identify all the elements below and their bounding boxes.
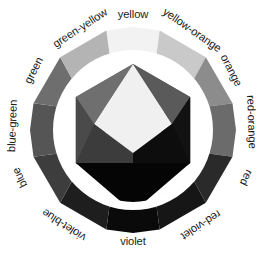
color-wheel-svg: yellow yellow-orange orange red-orange r… bbox=[0, 0, 266, 255]
ring-label-blue-green: blue-green bbox=[5, 99, 19, 152]
ring-label-red-orange: red-orange bbox=[245, 95, 259, 149]
color-wheel-figure: yellow yellow-orange orange red-orange r… bbox=[0, 0, 266, 255]
ring-label-yellow: yellow bbox=[118, 8, 150, 20]
ring-label-violet: violet bbox=[120, 235, 147, 247]
